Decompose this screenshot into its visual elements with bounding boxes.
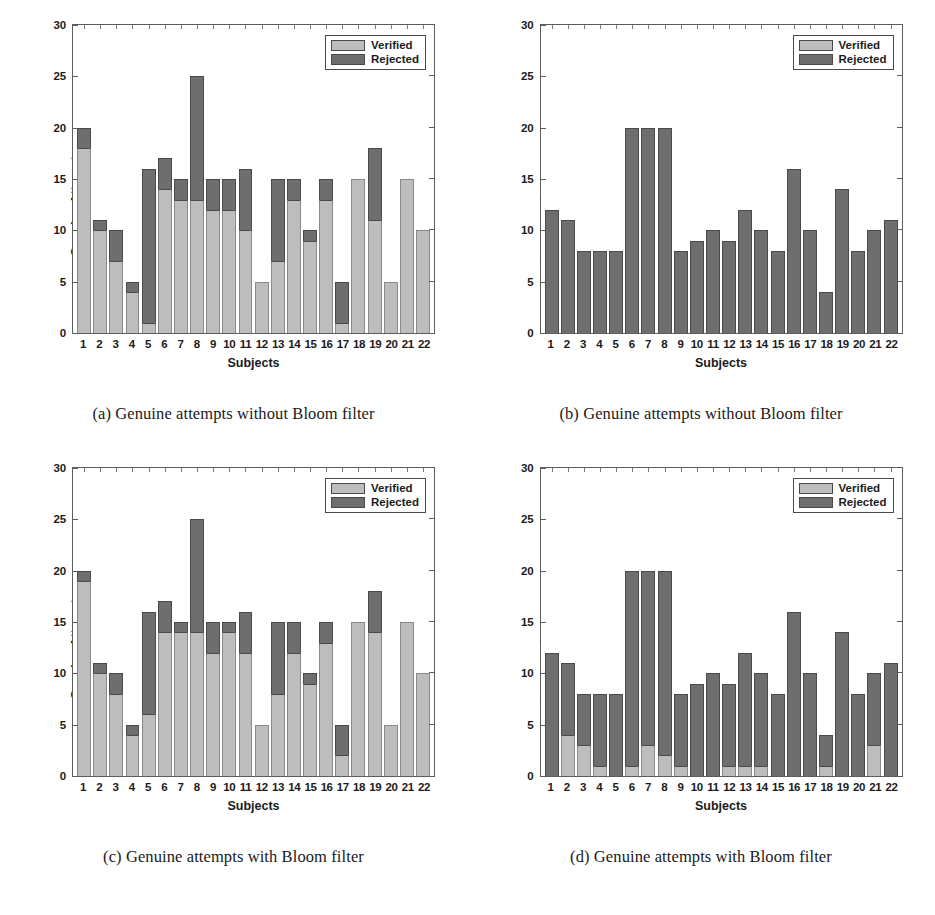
bar-segment-verified — [287, 653, 301, 776]
x-tick-label-8: 8 — [657, 777, 671, 795]
x-tick-label-7: 7 — [641, 777, 655, 795]
bar-segment-verified — [206, 653, 220, 776]
bar-subject-17 — [803, 468, 817, 776]
bar-segment-rejected — [851, 694, 865, 776]
x-tick-label-8: 8 — [657, 334, 671, 352]
bar-subject-9 — [674, 468, 688, 776]
x-tick-label-3: 3 — [109, 777, 123, 795]
y-tick-mark — [429, 281, 434, 282]
bar-segment-rejected — [109, 673, 123, 694]
legend-row-rejected: Rejected — [331, 497, 419, 508]
x-tick-label-9: 9 — [206, 334, 220, 352]
x-tick-label-14: 14 — [287, 777, 301, 795]
bar-segment-rejected — [674, 694, 688, 766]
bar-segment-rejected — [335, 725, 349, 756]
bar-subject-19 — [835, 25, 849, 333]
bar-segment-verified — [754, 766, 768, 776]
y-tick-label: 5 — [527, 719, 540, 731]
x-tick-label-20: 20 — [852, 334, 866, 352]
bar-subject-9 — [206, 468, 220, 776]
bar-segment-verified — [126, 735, 140, 776]
bar-subject-17 — [335, 25, 349, 333]
legend-swatch-rejected-icon — [799, 497, 833, 508]
x-axis-label-b: Subjects — [540, 356, 903, 370]
bar-segment-verified — [400, 622, 414, 776]
bar-subject-22 — [884, 468, 898, 776]
x-axis-label-d: Subjects — [540, 799, 903, 813]
x-tick-label-13: 13 — [271, 777, 285, 795]
bar-segment-verified — [561, 735, 575, 776]
bar-subject-1 — [77, 25, 91, 333]
bar-segment-rejected — [577, 251, 591, 333]
bar-segment-rejected — [368, 148, 382, 220]
x-tick-label-6: 6 — [625, 334, 639, 352]
x-tick-label-18: 18 — [820, 334, 834, 352]
bar-segment-rejected — [884, 220, 898, 333]
x-tick-label-13: 13 — [271, 334, 285, 352]
x-tick-label-3: 3 — [576, 334, 590, 352]
y-tick-label: 5 — [60, 719, 73, 731]
bar-segment-rejected — [577, 694, 591, 745]
y-tick-mark — [429, 178, 434, 179]
x-tick-label-2: 2 — [92, 777, 106, 795]
plot-area-b — [541, 25, 902, 333]
y-tick-label: 20 — [54, 565, 73, 577]
bar-segment-verified — [174, 632, 188, 776]
y-tick-label: 25 — [521, 70, 540, 82]
bar-segment-rejected — [641, 128, 655, 333]
legend-row-rejected: Rejected — [331, 54, 419, 65]
bar-subject-14 — [287, 25, 301, 333]
legend-label-rejected: Rejected — [371, 497, 419, 508]
x-tick-label-20: 20 — [385, 334, 399, 352]
bar-subject-4 — [593, 25, 607, 333]
bar-segment-verified — [93, 673, 107, 776]
bar-segment-rejected — [158, 158, 172, 189]
bar-segment-verified — [867, 745, 881, 776]
y-tick-mark — [897, 75, 902, 76]
x-tick-label-3: 3 — [576, 777, 590, 795]
x-tick-label-7: 7 — [641, 334, 655, 352]
x-tick-label-18: 18 — [352, 777, 366, 795]
x-tick-label-10: 10 — [222, 334, 236, 352]
bar-subject-6 — [158, 25, 172, 333]
bar-subject-5 — [609, 468, 623, 776]
bar-segment-verified — [142, 323, 156, 333]
bar-segment-verified — [93, 230, 107, 333]
bar-subject-19 — [368, 25, 382, 333]
bar-segment-rejected — [287, 179, 301, 200]
bar-subject-22 — [416, 468, 430, 776]
bar-segment-rejected — [319, 179, 333, 200]
chart-d: Imposter Attempts Verified Rejected 0510… — [494, 457, 909, 835]
caption-b: (b) Genuine attempts without Bloom filte… — [559, 404, 842, 424]
bar-subject-11 — [706, 25, 720, 333]
x-tick-label-6: 6 — [625, 777, 639, 795]
y-tick-mark — [897, 621, 902, 622]
bar-segment-rejected — [641, 571, 655, 746]
x-ticks-b: 12345678910111213141516171819202122 — [540, 334, 903, 352]
bar-segment-rejected — [561, 663, 575, 735]
x-tick-label-22: 22 — [885, 777, 899, 795]
plot-frame-a: Verified Rejected 051015202530 — [72, 24, 435, 334]
bar-subject-19 — [835, 468, 849, 776]
bar-subject-7 — [174, 25, 188, 333]
x-tick-label-2: 2 — [560, 777, 574, 795]
x-tick-label-9: 9 — [206, 777, 220, 795]
x-tick-label-13: 13 — [738, 334, 752, 352]
legend-label-verified: Verified — [371, 40, 413, 51]
bar-segment-rejected — [690, 684, 704, 776]
bar-subject-17 — [803, 25, 817, 333]
bar-subject-6 — [625, 468, 639, 776]
y-tick-mark — [897, 281, 902, 282]
y-tick-mark — [429, 621, 434, 622]
panel-a: Genuine Attempts Verified Rejected 05101… — [0, 0, 467, 443]
bar-segment-rejected — [787, 612, 801, 776]
y-tick-label: 10 — [54, 667, 73, 679]
bar-segment-rejected — [722, 241, 736, 333]
bar-segment-verified — [109, 694, 123, 776]
bar-segment-rejected — [174, 179, 188, 200]
bar-subject-14 — [287, 468, 301, 776]
bar-subject-18 — [351, 25, 365, 333]
x-tick-label-4: 4 — [125, 777, 139, 795]
y-tick-label: 5 — [60, 276, 73, 288]
bar-segment-verified — [593, 766, 607, 776]
